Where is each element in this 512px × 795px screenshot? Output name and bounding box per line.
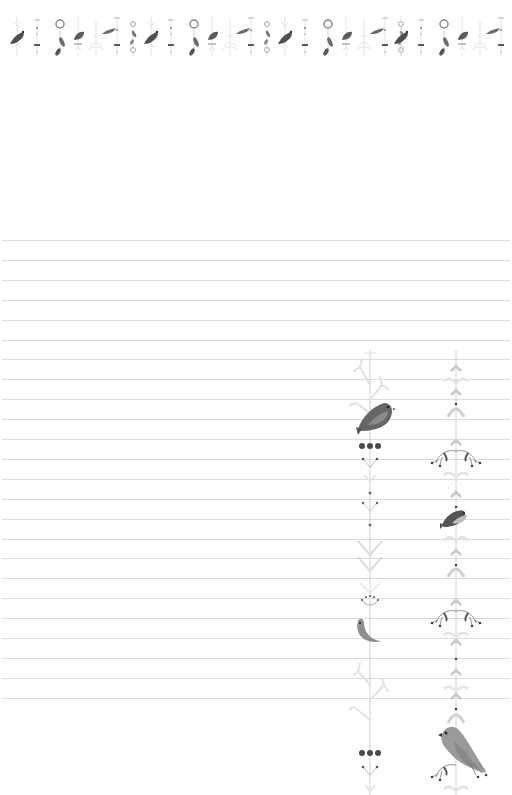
rule-line [2,260,510,261]
rule-line [2,320,510,321]
right-vine [431,350,488,795]
rule-line [2,300,510,301]
rule-line [2,340,510,341]
rule-line [2,240,510,241]
rule-line [2,280,510,281]
left-vine [350,350,396,795]
right-ornament-border [340,345,512,795]
vine-border-icon [340,345,512,795]
notepaper-page [0,0,512,795]
